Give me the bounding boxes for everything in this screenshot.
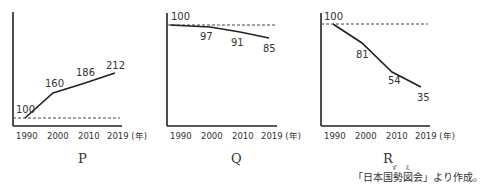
chart-r-label-2000: 81 xyxy=(356,49,369,60)
chart-q-label-2019: 85 xyxy=(263,43,276,54)
chart-p-tick-2010: 2010 xyxy=(78,131,100,141)
chart-q-line xyxy=(170,25,269,38)
chart-r-line xyxy=(333,24,421,87)
chart-p-caption: P xyxy=(78,151,87,166)
chart-p-tick-2000: 2000 xyxy=(47,131,69,141)
chart-q-tick-2000: 2000 xyxy=(201,131,223,141)
chart-r-tick-2010: 2010 xyxy=(386,131,408,141)
chart-q-label-2000: 97 xyxy=(200,31,213,42)
chart-q-caption: Q xyxy=(231,151,242,166)
chart-r-tick-1990: 1990 xyxy=(324,131,346,141)
chart-q-tick-2019: 2019 (年) xyxy=(261,131,301,141)
chart-r-label-2019: 35 xyxy=(417,92,430,103)
source-note: 「日本国勢図会」より作成。 xyxy=(353,169,483,184)
chart-q: 100 97 91 85 1990 2000 2010 2019 (年) Q xyxy=(167,11,301,166)
chart-p: 100 160 186 212 1990 2000 2010 2019 (年) … xyxy=(13,12,147,166)
chart-r: 100 81 54 35 1990 2000 2010 2019 (年) R xyxy=(321,11,455,166)
chart-q-tick-2010: 2010 xyxy=(232,131,254,141)
chart-p-label-2019: 212 xyxy=(106,60,125,71)
chart-r-tick-2000: 2000 xyxy=(355,131,377,141)
chart-p-tick-2019: 2019 (年) xyxy=(107,131,147,141)
chart-p-tick-1990: 1990 xyxy=(16,131,38,141)
chart-p-line xyxy=(25,73,115,118)
chart-q-label-2010: 91 xyxy=(231,37,244,48)
chart-q-tick-1990: 1990 xyxy=(170,131,192,141)
chart-p-label-1990: 100 xyxy=(16,104,35,115)
chart-p-label-2010: 186 xyxy=(76,67,95,78)
chart-r-label-2010: 54 xyxy=(388,75,401,86)
chart-r-tick-2019: 2019 (年) xyxy=(415,131,455,141)
chart-q-label-1990: 100 xyxy=(171,11,190,22)
chart-p-label-2000: 160 xyxy=(45,78,64,89)
chart-r-label-1990: 100 xyxy=(324,11,343,22)
